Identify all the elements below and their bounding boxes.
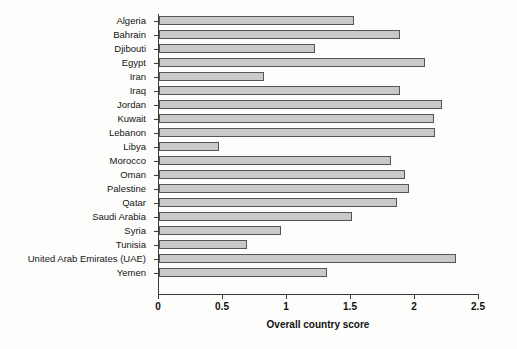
x-axis-line [158, 294, 478, 295]
bar-row [159, 98, 479, 112]
y-axis-label: Jordan [0, 98, 152, 112]
bar[interactable] [159, 16, 354, 25]
x-axis-tick-label: 2 [411, 301, 417, 312]
bar[interactable] [159, 212, 352, 221]
bar-row [159, 168, 479, 182]
bar-row [159, 196, 479, 210]
bar-row [159, 112, 479, 126]
y-axis-label: Tunisia [0, 238, 152, 252]
bar[interactable] [159, 156, 391, 165]
y-axis-label: Bahrain [0, 28, 152, 42]
y-axis-label: Syria [0, 224, 152, 238]
y-axis-label: Djibouti [0, 42, 152, 56]
bar[interactable] [159, 100, 442, 109]
bar[interactable] [159, 44, 315, 53]
bar[interactable] [159, 58, 425, 67]
bar[interactable] [159, 198, 397, 207]
bar[interactable] [159, 86, 400, 95]
bar-row [159, 14, 479, 28]
y-axis-label: Yemen [0, 266, 152, 280]
bar-row [159, 42, 479, 56]
x-axis-tick-label: 0 [155, 301, 161, 312]
bar-chart: AlgeriaBahrainDjiboutiEgyptIranIraqJorda… [0, 0, 517, 349]
bar-row [159, 70, 479, 84]
bar-row [159, 154, 479, 168]
plot-area [158, 14, 479, 294]
bar[interactable] [159, 142, 219, 151]
y-axis-label: Oman [0, 168, 152, 182]
y-axis-labels: AlgeriaBahrainDjiboutiEgyptIranIraqJorda… [0, 14, 152, 280]
y-axis-label: Lebanon [0, 126, 152, 140]
x-axis-tick [478, 294, 479, 299]
x-axis-tick [158, 294, 159, 299]
y-axis-label: Morocco [0, 154, 152, 168]
x-axis-tick-label: 2.5 [471, 301, 485, 312]
chart-figure: AlgeriaBahrainDjiboutiEgyptIranIraqJorda… [0, 0, 517, 349]
x-axis-title: Overall country score [158, 319, 478, 330]
bar[interactable] [159, 30, 400, 39]
bar-row [159, 126, 479, 140]
bar[interactable] [159, 170, 405, 179]
bar-row [159, 28, 479, 42]
y-axis-label: Palestine [0, 182, 152, 196]
bar[interactable] [159, 184, 409, 193]
bar-row [159, 56, 479, 70]
x-axis-tick-label: 1.5 [343, 301, 357, 312]
x-axis-tick [222, 294, 223, 299]
bar-row [159, 252, 479, 266]
bar-row [159, 140, 479, 154]
y-axis-label: Libya [0, 140, 152, 154]
bar-row [159, 266, 479, 280]
y-axis-label: Egypt [0, 56, 152, 70]
bar[interactable] [159, 254, 456, 263]
y-axis-label: Iraq [0, 84, 152, 98]
bar[interactable] [159, 72, 264, 81]
x-axis-tick [350, 294, 351, 299]
x-axis-tick-label: 1 [283, 301, 289, 312]
bar[interactable] [159, 114, 434, 123]
bar[interactable] [159, 226, 281, 235]
x-axis-tick-label: 0.5 [215, 301, 229, 312]
x-axis-tick [414, 294, 415, 299]
bar-row [159, 238, 479, 252]
bar-row [159, 84, 479, 98]
bar-row [159, 224, 479, 238]
y-axis-label: Algeria [0, 14, 152, 28]
bar-row [159, 210, 479, 224]
y-axis-label: Kuwait [0, 112, 152, 126]
bar[interactable] [159, 240, 247, 249]
y-axis-label: Iran [0, 70, 152, 84]
y-axis-label: United Arab Emirates (UAE) [0, 252, 152, 266]
y-axis-label: Qatar [0, 196, 152, 210]
bar-row [159, 182, 479, 196]
bar[interactable] [159, 128, 435, 137]
x-axis-tick [286, 294, 287, 299]
bar[interactable] [159, 268, 327, 277]
y-axis-label: Saudi Arabia [0, 210, 152, 224]
